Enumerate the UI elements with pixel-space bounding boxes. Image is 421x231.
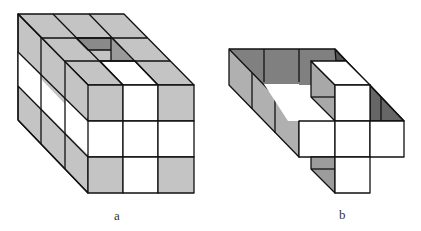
figure-a	[18, 14, 194, 193]
figure-a-label: a	[114, 208, 120, 224]
figure-b	[229, 49, 404, 193]
figure-b-label: b	[339, 207, 346, 223]
diagram-canvas	[0, 0, 421, 231]
